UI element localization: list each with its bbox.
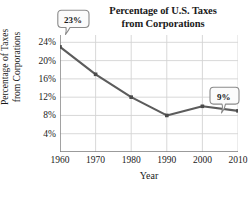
y-axis-tick-labels: 4%8%12%16%20%24% — [24, 35, 56, 152]
callout-bubble-9-percent: 9% — [209, 86, 241, 120]
x-tick-label-2010: 2010 — [218, 155, 250, 166]
x-tick-label-1990: 1990 — [147, 155, 187, 166]
callout-label-9: 9% — [217, 92, 231, 102]
data-point-1980 — [129, 95, 133, 99]
x-tick-label-1970: 1970 — [76, 155, 116, 166]
y-tick-label-4: 4% — [30, 129, 56, 139]
y-axis-title-line-2: from Corporations — [12, 7, 24, 127]
chart-title-line-1: Percentage of U.S. Taxes — [88, 5, 238, 18]
data-point-1960 — [60, 45, 62, 49]
y-tick-label-8: 8% — [30, 110, 56, 120]
data-point-2000 — [201, 104, 205, 108]
y-tick-label-20: 20% — [30, 56, 56, 66]
x-tick-label-1980: 1980 — [111, 155, 151, 166]
y-tick-label-12: 12% — [30, 92, 56, 102]
chart-figure: Percentage of U.S. Taxes from Corporatio… — [0, 0, 250, 199]
chart-title: Percentage of U.S. Taxes from Corporatio… — [88, 5, 238, 30]
y-tick-label-16: 16% — [30, 74, 56, 84]
chart-title-line-2: from Corporations — [88, 18, 238, 31]
callout-bubble-23-percent: 23% — [57, 9, 91, 41]
data-point-1970 — [94, 73, 98, 77]
x-tick-label-1960: 1960 — [40, 155, 80, 166]
x-axis-title: Year — [60, 170, 238, 182]
callout-label-23: 23% — [64, 15, 82, 25]
y-tick-label-24: 24% — [30, 37, 56, 47]
y-axis-title-line-1: Percentage of Taxes — [0, 7, 12, 127]
x-axis-tick-labels: 196019701980199020002010 — [60, 155, 238, 169]
data-point-1990 — [165, 114, 169, 118]
y-axis-title: Percentage of Taxes from Corporations — [0, 7, 26, 127]
x-tick-label-2000: 2000 — [182, 155, 222, 166]
